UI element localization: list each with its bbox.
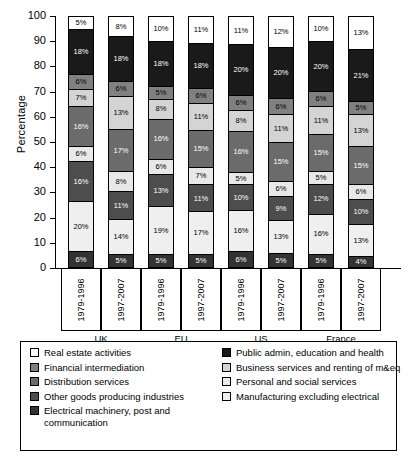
- bar-segment: 16%: [309, 215, 333, 255]
- bar-segment: 11%: [309, 107, 333, 135]
- bar-segment: 9%: [269, 197, 293, 220]
- bar-segment-label: 18%: [193, 62, 208, 70]
- legend-label: Public admin, education and health: [236, 347, 402, 359]
- bar-segment-label: 15%: [313, 149, 328, 157]
- legend-item: Manufacturing excluding electrical: [222, 391, 402, 403]
- bar-segment: 15%: [309, 135, 333, 173]
- y-axis-title: Percentage: [15, 59, 27, 189]
- bar-segment-label: 6%: [76, 78, 87, 86]
- legend-item: Business services and renting of m&eq: [222, 362, 402, 374]
- legend-item: Electrical machinery, post and communica…: [30, 405, 220, 428]
- bar-segment: 13%: [349, 17, 373, 50]
- bar-segment-label: 7%: [196, 172, 207, 180]
- bar-segment-label: 15%: [353, 162, 368, 170]
- y-axis-tick-label: 20: [34, 211, 46, 223]
- bar-segment: 5%: [69, 17, 93, 30]
- bar-segment-label: 20%: [273, 69, 288, 77]
- stacked-bar-chart: Percentage 0102030405060708090100 5%18%6…: [0, 0, 417, 340]
- legend-swatch: [30, 377, 39, 386]
- legend-swatch: [30, 363, 39, 372]
- stacked-bar: 8%18%6%13%17%8%11%14%5%: [108, 16, 134, 268]
- stacked-bar: 12%20%6%11%15%6%9%13%5%: [268, 16, 294, 268]
- bar-segment-label: 5%: [156, 89, 167, 97]
- bar-segment: 10%: [349, 200, 373, 225]
- y-axis-tick-label: 30: [34, 185, 46, 197]
- legend-item: Real estate activities: [30, 347, 220, 359]
- bar-segment: 10%: [309, 17, 333, 42]
- bar-segment-label: 16%: [153, 135, 168, 143]
- bar-segment: 7%: [189, 168, 213, 185]
- bar-segment-label: 5%: [116, 257, 127, 265]
- bar-segment-label: 11%: [234, 27, 248, 35]
- bar-segment: 5%: [149, 255, 173, 268]
- bar-segment-label: 6%: [196, 92, 207, 100]
- bar-segment-label: 11%: [194, 113, 208, 121]
- bar-segment-label: 17%: [193, 229, 208, 237]
- bar-segment-label: 5%: [316, 174, 327, 182]
- bar-segment-label: 5%: [156, 257, 167, 265]
- x-axis-period-cell: 1979-1996: [221, 269, 261, 331]
- bar-segment: 18%: [69, 30, 93, 75]
- bar-segment-label: 16%: [73, 123, 88, 131]
- bar-segment: 15%: [189, 131, 213, 168]
- bar-segment-label: 8%: [236, 117, 247, 125]
- bar-segment: 13%: [269, 221, 293, 255]
- bar-segment: 8%: [149, 100, 173, 120]
- bar-segment: 16%: [229, 132, 253, 173]
- bar-segment-label: 6%: [316, 95, 327, 103]
- bar-segment: 20%: [69, 202, 93, 252]
- bars-layer: 5%18%6%7%16%6%16%20%6%8%18%6%13%17%8%11%…: [55, 16, 401, 268]
- bar-segment: 13%: [349, 225, 373, 258]
- legend-swatch: [30, 406, 39, 415]
- bar-segment-label: 5%: [316, 257, 327, 265]
- bar-segment-label: 5%: [356, 104, 367, 112]
- bar-segment-label: 6%: [356, 188, 367, 196]
- bar-segment-label: 6%: [276, 103, 287, 111]
- bar-segment: 5%: [349, 102, 373, 115]
- x-axis-period-cell: 1979-1996: [301, 269, 341, 331]
- legend-label: Electrical machinery, post and communica…: [44, 405, 220, 428]
- bar-segment-label: 6%: [276, 185, 287, 193]
- bar-segment-label: 20%: [313, 63, 328, 71]
- x-axis-period-label: 1979-1996: [236, 278, 246, 321]
- bar-segment: 5%: [189, 255, 213, 267]
- bar-segment: 5%: [149, 87, 173, 100]
- stacked-bar: 5%18%6%7%16%6%16%20%6%: [68, 16, 94, 268]
- bar-segment-label: 15%: [193, 145, 208, 153]
- bar-segment-label: 20%: [73, 223, 88, 231]
- bar-segment: 6%: [189, 89, 213, 104]
- bar-segment-label: 8%: [116, 23, 127, 31]
- bar-segment: 20%: [309, 42, 333, 92]
- bar-segment: 8%: [109, 17, 133, 37]
- bar-segment: 10%: [149, 17, 173, 42]
- y-axis-tick-label: 70: [34, 85, 46, 97]
- y-axis-tick-label: 50: [34, 135, 46, 147]
- bar-segment: 18%: [109, 37, 133, 82]
- bar-segment: 15%: [269, 143, 293, 182]
- bar-segment: 13%: [149, 175, 173, 208]
- bar-segment: 11%: [189, 185, 213, 212]
- bar-segment: 6%: [229, 96, 253, 111]
- bar-segment: 13%: [109, 97, 133, 130]
- stacked-bar: 13%21%5%13%15%6%10%13%4%: [348, 16, 374, 268]
- bar-segment: 11%: [269, 115, 293, 143]
- bar-segment: 8%: [229, 111, 253, 131]
- bar-segment-label: 11%: [194, 26, 208, 34]
- bar-segment-label: 6%: [156, 163, 167, 171]
- bar-segment-label: 16%: [233, 227, 248, 235]
- bar-segment-label: 6%: [116, 85, 127, 93]
- bar-segment-label: 8%: [156, 105, 167, 113]
- bar-segment-label: 10%: [353, 208, 368, 216]
- bar-segment: 6%: [69, 75, 93, 90]
- y-axis-tick-label: 80: [34, 59, 46, 71]
- x-axis-period-cell: 1997-2007: [341, 269, 381, 331]
- bar-segment: 11%: [189, 17, 213, 44]
- x-axis-period-label: 1997-2007: [276, 278, 286, 321]
- bar-segment: 16%: [69, 162, 93, 202]
- bar-segment-label: 18%: [73, 48, 88, 56]
- x-axis-period-cell: 1979-1996: [141, 269, 181, 331]
- bar-segment: 19%: [149, 207, 173, 255]
- bar-segment-label: 10%: [153, 25, 168, 33]
- bar-segment-label: 9%: [276, 205, 287, 213]
- bar-segment: 6%: [69, 252, 93, 267]
